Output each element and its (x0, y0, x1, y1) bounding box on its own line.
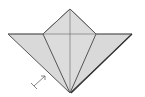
paper-shape (8, 9, 132, 93)
origami-diagram (0, 0, 145, 97)
fold-arrow-icon (31, 76, 45, 89)
